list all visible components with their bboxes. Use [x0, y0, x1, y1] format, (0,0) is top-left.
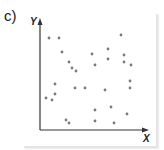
- x-axis-label: X: [142, 133, 151, 144]
- data-point: [84, 87, 87, 90]
- x-axis: [40, 128, 149, 133]
- data-point: [123, 61, 126, 64]
- data-point: [58, 37, 61, 40]
- y-axis-arrow-icon: [38, 18, 43, 25]
- data-point: [65, 119, 68, 122]
- data-point: [129, 80, 132, 83]
- data-point: [120, 34, 123, 37]
- data-point: [110, 106, 113, 109]
- x-axis-arrow-icon: [142, 128, 149, 133]
- scatter-plot: Y X: [0, 0, 164, 150]
- data-point: [61, 51, 64, 54]
- data-point: [91, 53, 94, 56]
- data-point: [74, 87, 77, 90]
- data-point: [45, 97, 48, 100]
- data-point: [126, 113, 129, 116]
- data-point: [129, 87, 132, 90]
- data-point: [54, 83, 57, 86]
- y-axis: [38, 18, 43, 130]
- data-point: [107, 58, 110, 61]
- data-point: [48, 37, 51, 40]
- data-point: [130, 64, 133, 67]
- data-point: [68, 122, 71, 125]
- data-point: [54, 93, 57, 96]
- data-point: [51, 99, 54, 102]
- data-points: [45, 34, 133, 125]
- y-axis-label: Y: [30, 16, 38, 27]
- data-point: [107, 48, 110, 51]
- data-point: [123, 54, 126, 57]
- data-point: [68, 61, 71, 64]
- data-point: [71, 67, 74, 70]
- data-point: [75, 70, 78, 73]
- data-point: [94, 64, 97, 67]
- data-point: [113, 122, 116, 125]
- data-point: [104, 89, 107, 92]
- data-point: [94, 109, 97, 112]
- data-point: [94, 120, 97, 123]
